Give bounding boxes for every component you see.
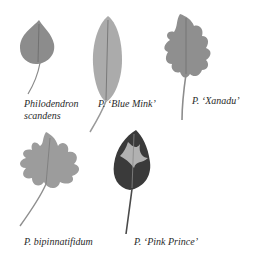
philodendron-scandens-caption-line2: scandens <box>24 110 61 121</box>
pink-prince-leaf-image <box>108 128 158 238</box>
philodendron-scandens-caption-line1: Philodendron <box>24 98 79 109</box>
bipinnatifidum-leaf-image <box>6 128 86 234</box>
philodendron-scandens-leaf-image <box>14 18 64 98</box>
bipinnatifidum-caption: P. bipinnatifidum <box>24 236 93 247</box>
xanadu-caption: P. ‘Xanadu’ <box>192 95 240 106</box>
blue-mink-caption: P. ‘Blue Mink’ <box>98 98 156 109</box>
pink-prince-caption: P. ‘Pink Prince’ <box>134 236 198 247</box>
blue-mink-leaf-image <box>84 14 134 134</box>
